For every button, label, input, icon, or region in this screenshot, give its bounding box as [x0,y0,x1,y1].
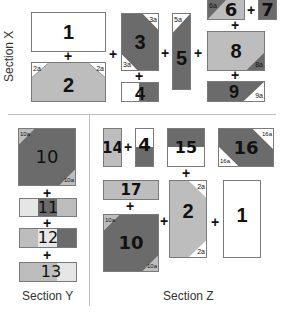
block-z-17: 17 [103,180,159,200]
block-z-4: 4 [135,128,154,167]
block-number: 8 [208,41,264,61]
block-x-3: 3a 3a 3 [121,13,159,71]
block-number: 1 [32,22,105,42]
corner-label: 9a [255,92,263,99]
plus-sign: + [124,199,136,213]
block-number: 10 [104,234,158,252]
block-number: 2 [32,75,105,95]
corner-label: 6a [209,2,217,9]
plus-sign: + [62,49,74,63]
block-number: 1 [224,205,260,225]
block-x-5: 5a 5 [172,13,191,90]
block-x-6: 6a 6 [207,0,245,20]
block-number: 11 [20,200,76,216]
corner-label: 10a [64,177,74,183]
corner-label: 2a [33,65,41,72]
section-y-label: Section Y [22,289,73,303]
block-number: 17 [104,183,158,198]
block-x-1: 1 [31,12,106,52]
corner-label: 10a [147,263,157,269]
corner-label: 2a [96,65,104,72]
block-number: 10 [19,148,75,166]
block-number: 12 [20,230,76,246]
block-z-1: 1 [223,180,261,258]
section-x-label: Section X [2,32,16,82]
block-x-7: 7 [258,0,277,20]
block-y-12: 12 [19,228,77,248]
plus-sign: + [159,46,171,60]
plus-sign: + [41,248,53,262]
block-number: 4 [122,85,158,102]
plus-sign: + [209,215,221,229]
corner-label: 8a [255,61,263,68]
block-number: 6 [218,1,244,19]
block-z-14: 14 [103,128,122,167]
block-y-11: 11 [19,198,77,217]
corner-label: 16a [220,158,230,164]
block-z-16: 16a 16a 16 [218,128,274,167]
plus-sign: + [229,18,241,32]
block-number: 3 [122,32,158,52]
block-z-2: 2a 2a 2 [169,180,207,258]
plus-sign: + [229,68,241,82]
block-number: 5 [173,48,190,68]
corner-label: 5a [174,16,182,23]
plus-sign: + [122,140,134,154]
block-number: 15 [168,140,204,156]
plus-sign: + [245,3,257,17]
plus-sign: + [133,69,145,83]
block-x-9: 9a 9 [207,81,265,102]
corner-label: 16a [262,131,272,137]
section-z-label: Section Z [163,289,214,303]
horizontal-divider [8,114,276,115]
corner-label: 10a [105,217,115,223]
corner-label: 2a [197,248,205,255]
block-number: 13 [26,264,76,280]
block-number: 16 [219,139,273,157]
block-number: 4 [136,136,153,154]
corner-label: 2a [197,183,205,190]
block-z-10: 10a 10a 10 [103,214,159,272]
block-z-15: 15 [167,128,205,167]
block-number: 7 [259,1,276,19]
block-x-4: 4 [121,82,159,102]
plus-sign: + [180,166,192,180]
block-y-13: 13 [19,262,77,282]
plus-sign: + [107,47,119,61]
block-x-8: 8a 8 [207,31,265,71]
vertical-divider [89,114,90,306]
corner-label: 3a [149,16,157,23]
plus-sign: + [192,46,204,60]
block-y-10: 10a 10a 10 [18,128,76,186]
corner-label: 10a [20,131,30,137]
corner-label: 3a [123,61,131,68]
block-number: 14 [103,140,122,155]
block-number: 2 [170,201,206,221]
block-x-2: 2a 2a 2 [31,62,106,102]
